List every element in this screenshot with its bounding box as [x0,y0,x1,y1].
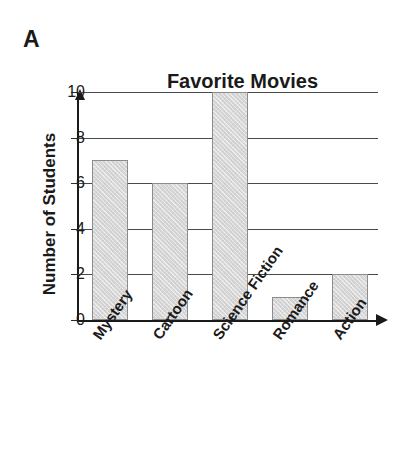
y-axis-tick-label: 2 [51,266,85,282]
y-axis-line [77,92,79,320]
y-axis-tick-label: 10 [51,84,85,100]
figure-panel: A Favorite Movies Number of Students 024… [0,0,403,464]
y-axis-tick-label: 0 [51,312,85,328]
x-axis-arrow-icon [376,314,388,326]
y-axis-tick-label: 6 [51,175,85,191]
panel-letter: A [23,28,40,51]
y-axis-tick-label: 4 [51,221,85,237]
y-axis-tick-label: 8 [51,130,85,146]
plot-area: 0246810 MysteryCartoonScience FictionRom… [77,86,390,321]
